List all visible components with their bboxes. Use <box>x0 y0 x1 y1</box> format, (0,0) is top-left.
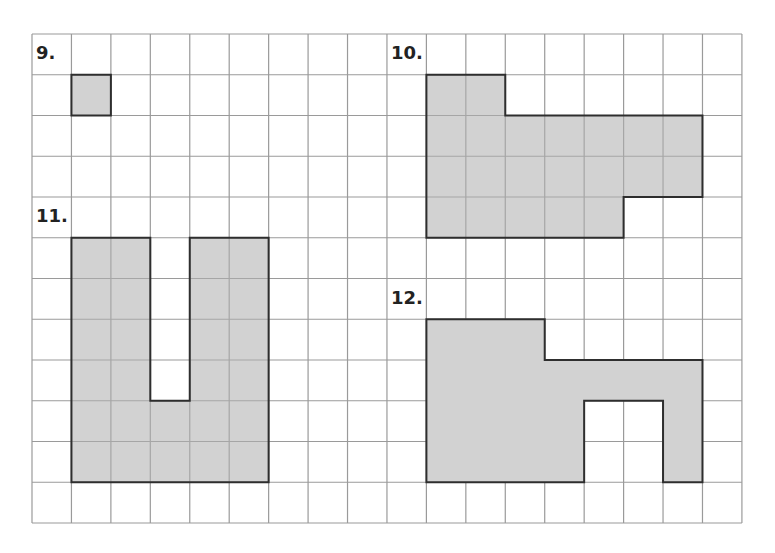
problem-12-label: 12. <box>391 289 423 307</box>
problem-10-label: 10. <box>391 44 423 62</box>
problem-9-label: 9. <box>36 44 55 62</box>
problem-12-shape <box>426 319 702 482</box>
problem-11-label: 11. <box>36 207 68 225</box>
grid-canvas <box>0 0 775 553</box>
